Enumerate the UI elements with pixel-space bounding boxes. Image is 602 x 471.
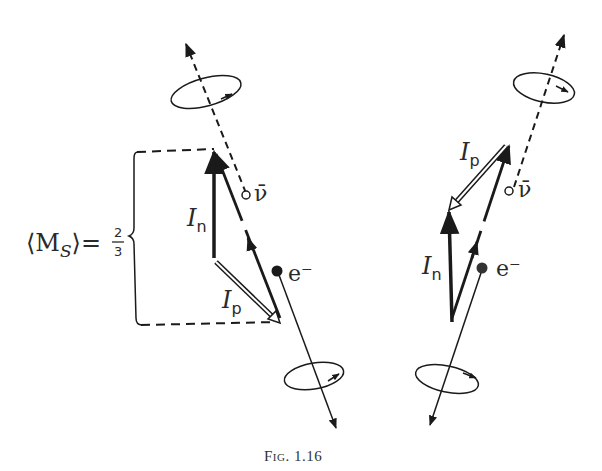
left-antineutrino-marker	[242, 191, 250, 199]
right-antineutrino-spin-loop-icon	[511, 68, 577, 108]
left-panel: ν̄ ⟨MS⟩= 2 3 In Ip e	[26, 44, 346, 428]
beta-decay-spin-diagram: ν̄ ⟨MS⟩= 2 3 In Ip e	[0, 0, 602, 471]
right-neutron-spin-vector	[449, 212, 452, 322]
left-electron-label: e⁻	[288, 261, 313, 286]
right-neutron-label: In	[421, 252, 442, 284]
figure-caption: Fig. 1.16	[264, 448, 322, 464]
right-proton-label: Ip	[459, 138, 480, 170]
left-electron-spin-loop-icon	[282, 358, 346, 394]
left-ms-expectation-label: ⟨MS⟩= 2 3	[26, 225, 124, 261]
left-electron-marker	[272, 266, 283, 277]
right-antineutrino-label: ν̄	[518, 177, 531, 202]
svg-text:3: 3	[114, 244, 122, 259]
svg-text:2: 2	[114, 225, 122, 240]
left-curly-brace	[129, 152, 142, 325]
svg-text:⟨MS⟩=: ⟨MS⟩=	[26, 229, 101, 261]
right-antineutrino-axis	[514, 35, 564, 187]
right-electron-label: e⁻	[496, 256, 521, 281]
left-proton-label: Ip	[221, 286, 242, 318]
left-neutron-label: In	[186, 204, 207, 236]
left-antineutrino-axis	[186, 44, 246, 193]
left-electron-axis	[279, 275, 336, 428]
left-antineutrino-label: ν̄	[254, 181, 267, 206]
right-electron-spin-loop-icon	[413, 360, 481, 399]
left-bracket-bottom-dashed	[141, 322, 276, 325]
right-electron-axis	[430, 273, 481, 425]
right-electron-marker	[477, 263, 488, 274]
left-bracket-top-dashed	[137, 149, 214, 152]
right-antineutrino-marker	[505, 187, 513, 195]
right-panel: ν̄ Ip In e⁻	[413, 35, 577, 425]
